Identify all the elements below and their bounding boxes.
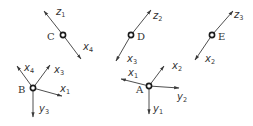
axis-x1-arrow [33, 88, 62, 96]
node-e-marker [209, 32, 214, 37]
frame-e: E z3 x2 [195, 9, 243, 66]
axis-x1-label: x1 [127, 67, 138, 80]
node-d-label: D [137, 31, 145, 42]
node-a-label: A [135, 84, 144, 95]
axis-z3-label: z3 [233, 9, 243, 22]
axis-x4-label: x4 [23, 62, 34, 75]
axis-x2-label: x2 [171, 60, 182, 73]
node-d-marker [128, 32, 133, 37]
node-c-label: C [47, 31, 55, 42]
node-b-marker [30, 85, 35, 90]
frame-c: C z1 x4 [44, 6, 93, 59]
axis-x2-label: x2 [204, 53, 215, 66]
axis-x3-label: x3 [126, 53, 137, 66]
axis-y2-label: y2 [176, 91, 187, 104]
axis-x3-label: x3 [53, 64, 64, 77]
node-b-label: B [18, 84, 25, 95]
axis-x1-arrow [121, 79, 149, 86]
axis-x4-label: x4 [82, 41, 93, 54]
frame-a: A x1 x2 y2 y1 [121, 60, 187, 116]
node-e-label: E [218, 31, 225, 42]
axis-x2-arrow [149, 66, 164, 86]
axis-x4-arrow [63, 35, 81, 59]
frame-d: D z2 x3 [116, 10, 162, 66]
axis-y1-label: y1 [152, 103, 163, 116]
axis-x3-arrow [33, 65, 50, 88]
coordinate-frames-diagram: C z1 x4 B x4 x3 x1 y3 D z2 x3 A x1 x2 y2… [0, 0, 253, 126]
node-c-marker [60, 32, 65, 37]
axis-y2-arrow [149, 86, 179, 88]
axis-z1-label: z1 [55, 6, 65, 19]
axis-y3-label: y3 [38, 103, 49, 116]
axis-x1-label: x1 [59, 83, 70, 96]
frame-b: B x4 x3 x1 y3 [17, 62, 70, 117]
node-a-marker [146, 83, 151, 88]
axis-z2-label: z2 [152, 10, 162, 23]
